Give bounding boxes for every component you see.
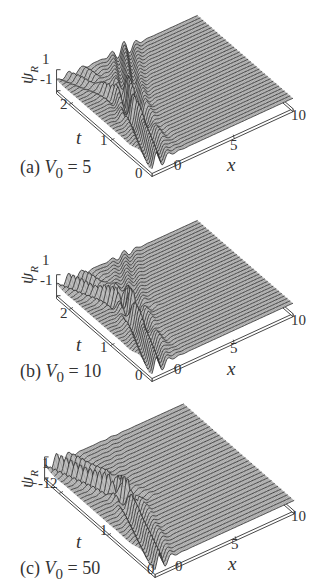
t-tick-0: 0 [135,368,143,383]
x-tick-5: 5 [231,537,239,552]
t-tick-1: 1 [100,133,108,148]
t-axis-label: t [76,532,81,551]
t-tick-0: 0 [147,562,155,577]
x-axis-label: x [227,155,235,174]
caption-prefix: (c) [20,558,44,578]
z-label-sub: R [28,266,40,273]
surface-plot-panel-b: ψR 1 -1 2 1 0 t 0 5 10 x (b) V0 = 10 [0,196,327,392]
x-tick-10: 10 [291,313,306,328]
t-tick-0: 0 [135,166,143,181]
t-tick-2: 2 [60,97,68,112]
x-tick-0: 0 [175,559,183,574]
x-tick-0: 0 [174,158,182,173]
t-tick-1: 1 [100,523,108,538]
x-tick-5: 5 [230,341,238,356]
z-axis-label: ψR [18,470,40,488]
caption-eq: = 50 [63,558,100,578]
z-label-text: ψ [17,73,37,84]
t-tick-2: 2 [60,306,68,321]
caption-eq: = 5 [63,157,91,177]
z-tick-minus1: -1 [40,273,53,288]
z-tick-1: 1 [42,52,50,67]
z-axis-label: ψR [18,66,40,84]
x-axis-label: x [228,554,236,573]
z-tick-1: 1 [42,253,50,268]
caption-var: V [46,361,57,381]
panel-caption: (b) V0 = 10 [20,362,101,385]
caption-var: V [44,558,55,578]
z-label-text: ψ [17,477,37,488]
z-label-text: ψ [17,273,37,284]
z-label-sub: R [28,66,40,73]
t-axis-label: t [76,335,81,354]
x-tick-10: 10 [291,108,306,123]
z-axis-label: ψR [18,266,40,284]
caption-prefix: (a) [20,157,44,177]
t-tick-2: 2 [50,476,58,491]
z-tick-1: 1 [42,456,50,471]
caption-prefix: (b) [20,361,46,381]
panel-caption: (a) V0 = 5 [20,158,91,181]
caption-sub: 0 [57,369,65,385]
x-tick-5: 5 [230,138,238,153]
caption-sub: 0 [55,566,63,582]
caption-eq: = 10 [64,361,101,381]
t-axis-label: t [76,128,81,147]
x-tick-10: 10 [291,509,306,524]
panel-caption: (c) V0 = 50 [20,559,100,582]
surface-plot-panel-c: ψR 1 -1 2 1 0 t 0 5 10 x (c) V0 = 50 [0,392,327,588]
surface-plot-panel-a: ψR 1 -1 2 1 0 t 0 5 10 x (a) V0 = 5 [0,0,327,196]
x-tick-0: 0 [174,362,182,377]
x-axis-label: x [227,359,235,378]
z-tick-minus1: -1 [38,476,51,491]
caption-sub: 0 [55,165,63,181]
t-tick-1: 1 [100,340,108,355]
caption-var: V [44,157,55,177]
z-tick-minus1: -1 [40,72,53,87]
